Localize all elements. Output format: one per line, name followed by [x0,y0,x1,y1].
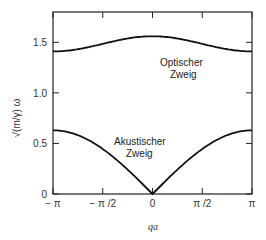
y-tick-label: 1.0 [33,88,47,99]
optical-branch-label-line2: Zweig [170,69,197,80]
y-axis-label: √(m/γ) ω [11,98,22,137]
axis-ticks: − π− π /20π /2π00.51.01.5 [33,12,255,209]
y-tick-label: 0.5 [33,138,47,149]
x-tick-label: π /2 [193,198,211,209]
y-tick-label: 0 [41,189,47,200]
acoustic-branch-label: Akustischer [114,136,166,147]
y-tick-label: 1.5 [33,37,47,48]
x-tick-label: − π [45,198,61,209]
plot-frame [53,12,252,194]
x-axis-label: qa [148,221,158,232]
optical-branch-curve [53,36,252,51]
x-tick-label: − π /2 [89,198,116,209]
curves [53,36,252,194]
dispersion-chart: − π− π /20π /2π00.51.01.5 Optischer Zwei… [0,0,266,240]
optical-branch-label: Optischer [160,57,203,68]
acoustic-branch-label-line2: Zweig [126,148,153,159]
x-tick-label: π [249,198,256,209]
x-tick-label: 0 [150,198,156,209]
